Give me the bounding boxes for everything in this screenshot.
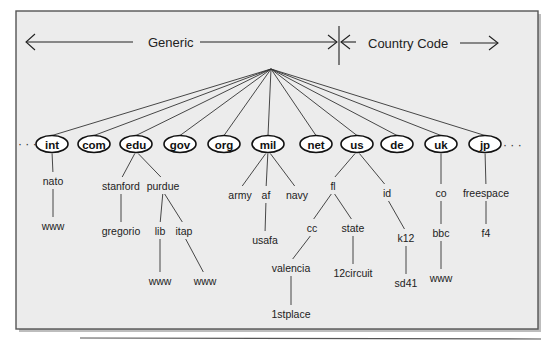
domain-node-state: state: [342, 222, 365, 234]
tld-label: int: [45, 139, 59, 151]
tld-node-net: net: [300, 136, 332, 153]
tld-node-mil: mil: [252, 136, 284, 153]
domain-node-af: af: [262, 189, 271, 201]
tld-label: com: [82, 139, 106, 151]
tld-label: mil: [260, 139, 277, 151]
bottom-rule: [80, 338, 541, 339]
domain-node-itap: itap: [176, 225, 193, 237]
tld-node-int: int: [36, 136, 68, 153]
tld-node-edu: edu: [120, 136, 152, 153]
domain-node-valencia: valencia: [272, 262, 311, 274]
dns-hierarchy-diagram: Generic Country Code intcomedugovorgmiln…: [0, 0, 549, 343]
domain-node-uk-www: www: [429, 272, 453, 284]
left-ellipsis: · · ·: [18, 137, 37, 151]
tld-node-uk: uk: [425, 136, 457, 153]
domain-node-army: army: [228, 189, 252, 201]
tld-label: edu: [126, 139, 146, 151]
domain-node-1stplace: 1stplace: [271, 308, 310, 320]
domain-node-usafa: usafa: [252, 234, 278, 246]
tld-node-jp: jp: [469, 136, 501, 153]
domain-node-purdue: purdue: [147, 180, 180, 192]
domain-node-lib: lib: [155, 225, 166, 237]
tld-node-us: us: [341, 136, 373, 153]
tld-label: org: [215, 139, 234, 151]
domain-node-gregorio: gregorio: [102, 225, 141, 237]
tld-node-de: de: [381, 136, 413, 153]
domain-node-fl: fl: [330, 180, 335, 192]
tld-label: us: [350, 139, 363, 151]
domain-node-sd41: sd41: [395, 277, 418, 289]
domain-node-cc: cc: [307, 222, 318, 234]
tld-node-com: com: [78, 136, 110, 153]
domain-node-co: co: [435, 187, 446, 199]
tld-label: uk: [434, 139, 448, 151]
domain-node-navy: navy: [286, 189, 309, 201]
domain-node-k12: k12: [398, 232, 415, 244]
tld-label: net: [307, 139, 324, 151]
domain-node-freespace: freespace: [463, 187, 509, 199]
diagram-frame: [16, 11, 538, 329]
tld-node-gov: gov: [164, 136, 196, 153]
domain-node-f4: f4: [482, 227, 491, 239]
tld-node-org: org: [208, 136, 240, 153]
tld-label: gov: [170, 139, 191, 151]
tld-label: jp: [479, 139, 490, 151]
domain-node-id: id: [383, 187, 391, 199]
domain-node-itap-www: www: [193, 275, 217, 287]
domain-node-stanford: stanford: [102, 180, 140, 192]
domain-node-12circuit: 12circuit: [333, 267, 372, 279]
domain-node-bbc: bbc: [433, 227, 450, 239]
domain-node-nato: nato: [43, 175, 64, 187]
domain-node-lib-www: www: [148, 275, 172, 287]
generic-label: Generic: [148, 35, 194, 50]
domain-node-int-www: www: [41, 220, 65, 232]
right-ellipsis: · · ·: [503, 138, 522, 152]
tld-label: de: [390, 139, 403, 151]
country-code-label: Country Code: [368, 36, 448, 51]
